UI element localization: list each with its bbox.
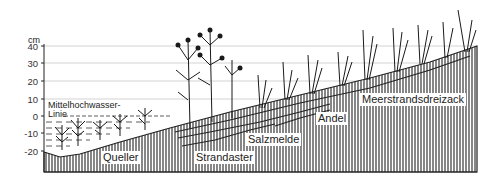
tick-label: 40	[27, 42, 38, 52]
zone-label-andel: Andel	[316, 112, 348, 125]
zone-label-strandaster: Strandaster	[194, 151, 255, 164]
tick-label: -10	[24, 129, 38, 139]
mean-high-water-label-line2: Linie	[48, 110, 67, 119]
zone-label-meerstrandsdreizack: Meerstrandsdreizack	[360, 93, 466, 106]
tick-label: 0	[33, 112, 38, 122]
tick-label: 20	[27, 77, 38, 87]
zonation-diagram: cm 40 30 20 10 0 -10 -20 Mittelhochwasse…	[0, 0, 501, 188]
tick-label: 10	[27, 95, 38, 105]
zone-label-queller: Queller	[101, 151, 140, 164]
tick-label: 30	[27, 59, 38, 69]
zone-label-salzmelde: Salzmelde	[246, 133, 301, 146]
tick-label: -20	[24, 147, 38, 157]
